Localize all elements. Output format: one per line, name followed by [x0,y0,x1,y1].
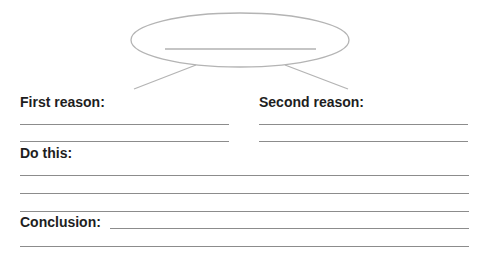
conclusion-line-1[interactable] [110,228,469,229]
do-this-line-1[interactable] [20,175,469,176]
first-reason-label: First reason: [20,94,105,110]
conclusion-label: Conclusion: [20,214,101,230]
topic-diagram [0,0,484,100]
second-reason-line-1[interactable] [259,124,468,125]
second-reason-line-2[interactable] [259,141,468,142]
second-reason-label: Second reason: [259,94,364,110]
conclusion-line-2[interactable] [20,246,469,247]
do-this-line-3[interactable] [20,211,469,212]
first-reason-line-1[interactable] [20,124,229,125]
connector-right [285,65,348,89]
do-this-label: Do this: [20,145,72,161]
topic-ellipse [131,13,349,67]
connector-left [134,65,196,89]
do-this-line-2[interactable] [20,193,469,194]
first-reason-line-2[interactable] [20,141,229,142]
